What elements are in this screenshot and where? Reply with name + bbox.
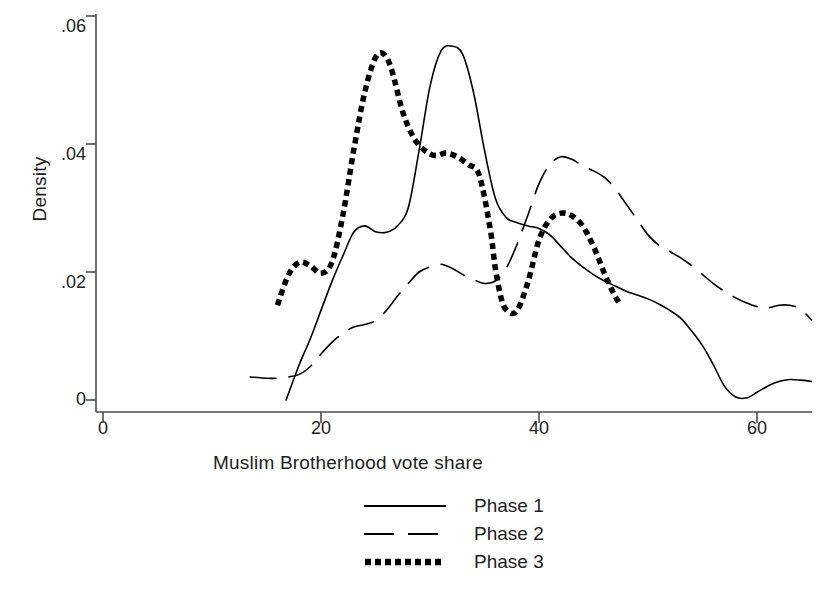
legend-label-phase-1: Phase 1 [448,495,544,517]
series-line-phase-3 [277,53,619,314]
series-layer [250,46,811,400]
plot-area [0,0,838,470]
density-plot-figure: Density .06 .04 .02 0 0 20 40 60 Muslim … [0,0,838,592]
legend-label-phase-2: Phase 2 [448,523,544,545]
legend-item-phase-1[interactable]: Phase 1 [362,492,652,520]
y-axis-ticks [86,16,96,400]
legend-label-phase-3: Phase 3 [448,551,544,573]
legend-key-dashed-icon [362,526,448,542]
legend-key-dotted-icon [362,554,448,570]
legend-key-solid-icon [362,498,448,514]
legend-item-phase-2[interactable]: Phase 2 [362,520,652,548]
x-axis-ticks [103,412,757,423]
legend: Phase 1 Phase 2 Phase 3 [362,492,652,576]
legend-item-phase-3[interactable]: Phase 3 [362,548,652,576]
